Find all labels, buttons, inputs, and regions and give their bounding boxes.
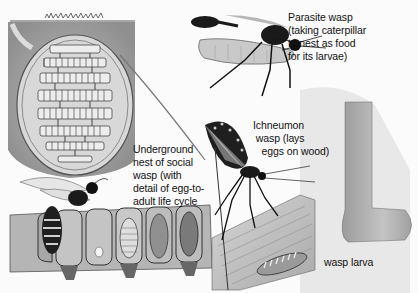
wasp-illustration: Parasite wasp (taking caterpillar to nes… bbox=[0, 0, 418, 293]
nest-comb-cells bbox=[10, 205, 212, 280]
label-underground-nest: Underground nest of social wasp (with de… bbox=[133, 143, 204, 208]
label-parasite-wasp: Parasite wasp (taking caterpillar to nes… bbox=[288, 11, 366, 63]
underground-nest bbox=[8, 13, 135, 178]
label-ichneumon-wasp: Ichneumon wasp (lays eggs on wood) bbox=[253, 119, 329, 158]
wood-log bbox=[212, 195, 315, 290]
label-wasp-larva: wasp larva bbox=[324, 256, 373, 269]
